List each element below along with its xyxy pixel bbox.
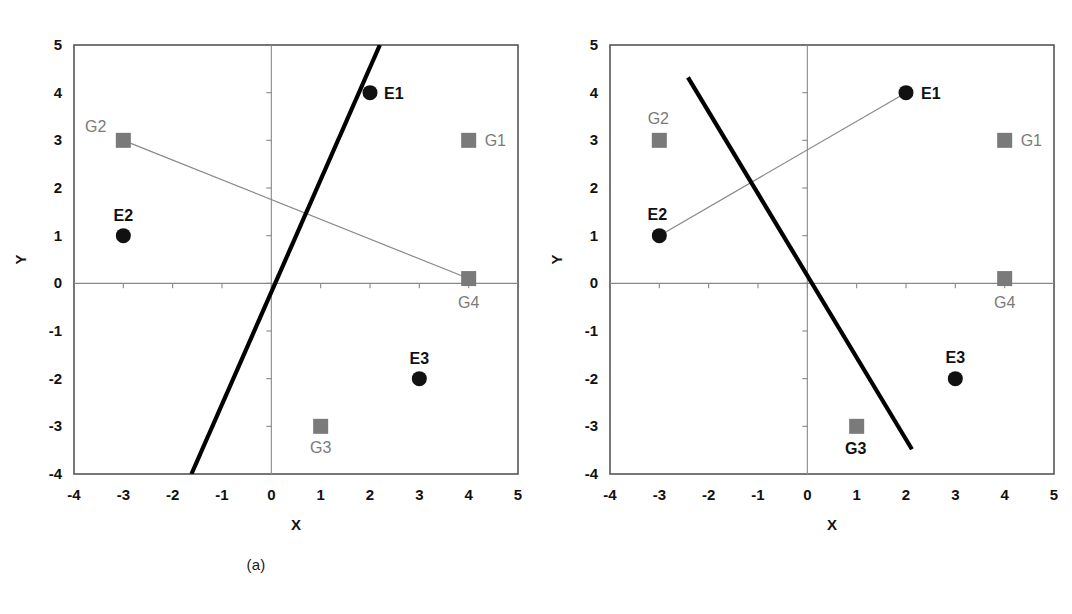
- y-tick-label: 3: [590, 131, 598, 148]
- y-tick-label: 4: [590, 84, 599, 101]
- x-tick-label: 5: [514, 486, 522, 503]
- point-label-g3: G3: [845, 440, 866, 457]
- connector-line: [123, 140, 468, 278]
- y-tick-label: 5: [54, 36, 62, 53]
- plot-frame: [610, 45, 1054, 474]
- data-point-g4[interactable]: [461, 271, 476, 286]
- x-tick-label: 3: [415, 486, 423, 503]
- data-point-e1[interactable]: [899, 85, 914, 100]
- data-point-g1[interactable]: [461, 133, 476, 148]
- x-tick-label: -3: [653, 486, 666, 503]
- point-label-g1: G1: [485, 132, 506, 149]
- point-label-e2: E2: [648, 206, 668, 223]
- connector-line: [659, 93, 906, 236]
- point-label-g4: G4: [994, 294, 1015, 311]
- y-tick-label: -2: [49, 370, 62, 387]
- x-tick-label: 1: [316, 486, 324, 503]
- separator-line: [191, 45, 379, 474]
- x-tick-label: 2: [902, 486, 910, 503]
- x-tick-label: -2: [702, 486, 715, 503]
- panel-a: -4-3-2-1012345543210-1-2-3-4E1E2E3G1G2G3…: [0, 0, 536, 614]
- y-tick-label: 2: [54, 179, 62, 196]
- y-tick-label: -2: [585, 370, 598, 387]
- point-label-e1: E1: [384, 85, 404, 102]
- data-point-e2[interactable]: [116, 228, 131, 243]
- separator-line: [688, 77, 912, 449]
- y-tick-label: 1: [590, 227, 598, 244]
- panel-a-plot: -4-3-2-1012345543210-1-2-3-4E1E2E3G1G2G3…: [0, 0, 536, 540]
- y-tick-label: 0: [54, 274, 62, 291]
- x-tick-label: 0: [267, 486, 275, 503]
- plot-frame: [74, 45, 518, 474]
- y-tick-label: -4: [49, 465, 63, 482]
- x-tick-label: -1: [751, 486, 764, 503]
- figure-container: -4-3-2-1012345543210-1-2-3-4E1E2E3G1G2G3…: [0, 0, 1072, 614]
- data-point-g3[interactable]: [849, 419, 864, 434]
- x-tick-label: 5: [1050, 486, 1058, 503]
- x-tick-label: -4: [67, 486, 81, 503]
- x-tick-label: -3: [117, 486, 130, 503]
- data-point-g2[interactable]: [116, 133, 131, 148]
- y-axis-title: Y: [548, 254, 565, 264]
- x-axis-title: X: [291, 516, 301, 533]
- point-label-g3: G3: [310, 439, 331, 456]
- y-tick-label: -1: [49, 322, 62, 339]
- y-tick-label: -3: [49, 417, 62, 434]
- x-tick-label: -1: [215, 486, 228, 503]
- x-axis-title: X: [827, 516, 837, 533]
- x-tick-label: -2: [166, 486, 179, 503]
- y-tick-label: -3: [585, 417, 598, 434]
- y-axis-title: Y: [12, 254, 29, 264]
- panel-a-caption: (a): [226, 556, 286, 573]
- x-tick-label: 1: [852, 486, 860, 503]
- y-tick-label: 3: [54, 131, 62, 148]
- data-point-e2[interactable]: [652, 228, 667, 243]
- data-point-e1[interactable]: [363, 85, 378, 100]
- point-label-g4: G4: [458, 294, 479, 311]
- data-point-e3[interactable]: [412, 371, 427, 386]
- panel-b-plot: -4-3-2-1012345543210-1-2-3-4E1E2E3G1G2G3…: [536, 0, 1072, 540]
- point-label-g2: G2: [85, 118, 106, 135]
- y-tick-label: 4: [54, 84, 63, 101]
- point-label-e3: E3: [946, 349, 966, 366]
- data-point-e3[interactable]: [948, 371, 963, 386]
- y-tick-label: 5: [590, 36, 598, 53]
- data-point-g1[interactable]: [997, 133, 1012, 148]
- x-tick-label: 3: [951, 486, 959, 503]
- data-point-g2[interactable]: [652, 133, 667, 148]
- panel-b: -4-3-2-1012345543210-1-2-3-4E1E2E3G1G2G3…: [536, 0, 1072, 614]
- x-tick-label: 4: [1000, 486, 1009, 503]
- y-tick-label: 0: [590, 274, 598, 291]
- point-label-g1: G1: [1021, 132, 1042, 149]
- point-label-e1: E1: [921, 85, 941, 102]
- y-tick-label: 1: [54, 227, 62, 244]
- y-tick-label: 2: [590, 179, 598, 196]
- y-tick-label: -1: [585, 322, 598, 339]
- data-point-g4[interactable]: [997, 271, 1012, 286]
- point-label-g2: G2: [648, 110, 669, 127]
- point-label-e3: E3: [410, 350, 430, 367]
- x-tick-label: 0: [803, 486, 811, 503]
- point-label-e2: E2: [114, 207, 134, 224]
- x-tick-label: 2: [366, 486, 374, 503]
- y-tick-label: -4: [585, 465, 599, 482]
- data-point-g3[interactable]: [313, 419, 328, 434]
- x-tick-label: -4: [603, 486, 617, 503]
- x-tick-label: 4: [464, 486, 473, 503]
